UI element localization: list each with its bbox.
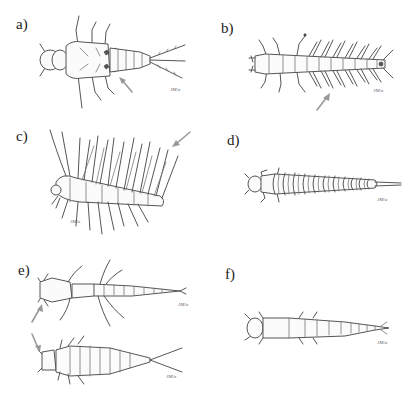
signature-b: JM/a [373,88,384,93]
panel-a: a) JM/a [0,0,205,130]
larva-c-illustration: JM/a [0,130,205,260]
panel-d: d) JM/a [205,130,410,260]
panel-b: b) JM/a [205,0,410,130]
signature-d: JM/a [377,197,388,202]
panel-f: f) JM/a [205,260,410,399]
larva-a-illustration: JM/a [0,0,205,130]
signature-f: JM/a [377,340,388,345]
larva-e-illustration: JM/a JM/a [0,260,205,399]
panel-c: c) JM/a [0,130,205,260]
signature-c: JM/a [70,219,81,224]
signature-e-lower: JM/a [166,374,177,379]
panel-e: e) JM/a JM/a [0,260,205,399]
signature-e-upper: JM/a [178,302,189,307]
larva-d-illustration: JM/a [205,130,410,260]
larva-b-illustration: JM/a [205,0,410,130]
larva-f-illustration: JM/a [205,260,410,399]
signature-a: JM/a [170,87,181,92]
